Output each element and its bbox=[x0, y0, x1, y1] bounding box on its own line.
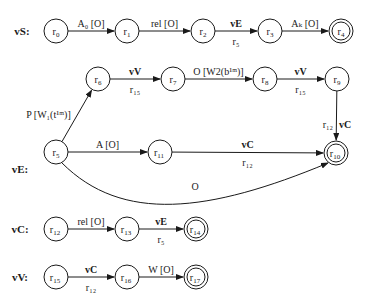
edge-sublabel: r₁₂ bbox=[323, 119, 333, 130]
edge-r11-r10 bbox=[172, 152, 323, 153]
edge-sublabel: r₁₂ bbox=[242, 157, 252, 168]
edge-r9-r10 bbox=[336, 91, 337, 140]
state-node-r7: r7 bbox=[161, 67, 185, 91]
state-node-r15: r15 bbox=[44, 265, 68, 289]
automaton-label: vE: bbox=[12, 163, 29, 175]
state-node-r8: r8 bbox=[253, 67, 277, 91]
state-node-r3: r3 bbox=[258, 19, 282, 43]
automaton-label: vC: bbox=[11, 223, 28, 235]
edge-label: O bbox=[191, 181, 198, 192]
edge-sublabel: r₅ bbox=[233, 36, 240, 47]
automaton-label: vS: bbox=[14, 25, 29, 37]
edge-label: Aₖ [O] bbox=[291, 18, 318, 29]
state-node-r0: r0 bbox=[44, 19, 68, 43]
edge-label: vE bbox=[155, 216, 167, 227]
edge-label: vC bbox=[339, 119, 351, 130]
state-node-r6: r6 bbox=[86, 67, 110, 91]
edge-label: W [O] bbox=[148, 264, 174, 275]
edge-label: P [W₁(t¹ᵐ)] bbox=[26, 109, 71, 121]
edge-label: vC bbox=[85, 264, 97, 275]
automaton-label: vV: bbox=[12, 271, 28, 283]
edge-label: vE bbox=[230, 18, 242, 29]
state-node-r16: r16 bbox=[115, 265, 139, 289]
edge-sublabel: r₁₅ bbox=[130, 84, 140, 95]
edge-label: rel [O] bbox=[151, 18, 178, 29]
state-node-r1: r1 bbox=[115, 19, 139, 43]
edge-label: rel [O] bbox=[78, 216, 105, 227]
edge-label: vC bbox=[241, 139, 253, 150]
state-node-r5: r5 bbox=[44, 140, 68, 164]
state-node-r17: r17 bbox=[184, 265, 208, 289]
automaton-labels-layer: vS:vE:vC:vV: bbox=[11, 25, 29, 283]
edge-sublabel: r₁₅ bbox=[295, 84, 305, 95]
state-node-r9: r9 bbox=[325, 67, 349, 91]
edge-label: A₀ [O] bbox=[77, 18, 104, 29]
nodes-layer: r0r1r2r3r4r5r6r7r8r9r10r11r12r13r14r15r1… bbox=[44, 19, 353, 289]
edge-label: O [W2(b¹ᵐ)] bbox=[193, 66, 243, 78]
edge-label: vV bbox=[294, 66, 307, 77]
edge-label: A [O] bbox=[96, 139, 119, 150]
state-node-r12: r12 bbox=[44, 217, 68, 241]
state-node-r14: r14 bbox=[184, 217, 208, 241]
state-node-r11: r11 bbox=[148, 140, 172, 164]
automata-diagram: A₀ [O]rel [O]vEr₅Aₖ [O]P [W₁(t¹ᵐ)]vVr₁₅O… bbox=[0, 0, 365, 305]
edge-label: vV bbox=[129, 66, 142, 77]
state-node-r4: r4 bbox=[329, 19, 353, 43]
edge-sublabel: r₁₂ bbox=[86, 282, 96, 293]
state-node-r10: r10 bbox=[324, 141, 348, 165]
state-node-r2: r2 bbox=[191, 19, 215, 43]
state-node-r13: r13 bbox=[115, 217, 139, 241]
edge-sublabel: r₅ bbox=[158, 234, 165, 245]
edges-layer: A₀ [O]rel [O]vEr₅Aₖ [O]P [W₁(t¹ᵐ)]vVr₁₅O… bbox=[26, 18, 351, 293]
